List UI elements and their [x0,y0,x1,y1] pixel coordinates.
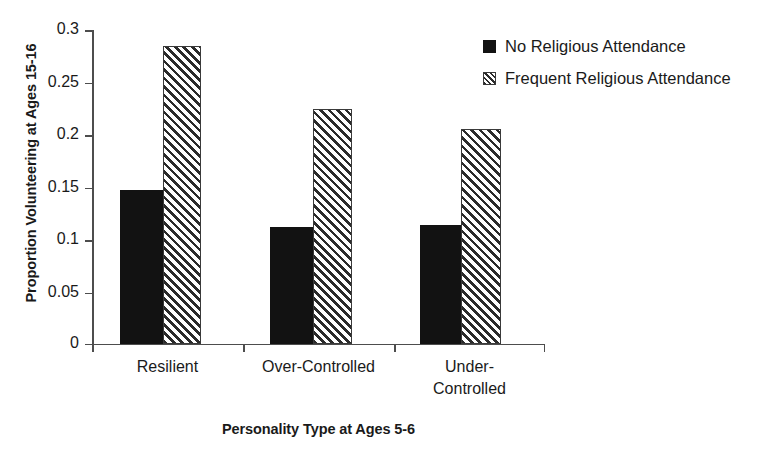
bar-under-controlled-frequent-attendance [461,129,501,343]
y-axis-line [92,30,94,345]
chart-legend: No Religious Attendance Frequent Religio… [483,30,731,94]
y-tick-label-0.1: 0.1 [57,230,79,248]
y-tick-label-0.3: 0.3 [57,20,79,38]
y-tick-label-0: 0 [70,334,79,352]
y-tick-0: 0 [85,344,92,346]
x-category-label-under-controlled-line2: Controlled [394,378,545,400]
y-tick-label-0.25: 0.25 [48,73,79,91]
y-axis-title: Proportion Volunteering at Ages 15-16 [23,3,39,343]
x-category-label-under-controlled-line1: Under- [394,356,545,378]
plot-area: 0.3 0.25 0.2 0.15 0.1 0.05 0 [92,30,545,345]
y-tick-label-0.05: 0.05 [48,283,79,301]
y-tick-label-0.15: 0.15 [48,178,79,196]
x-category-label-resilient: Resilient [92,356,243,378]
bar-under-controlled-no-attendance [420,225,461,344]
y-tick-0.15: 0.15 [85,188,92,190]
bar-resilient-no-attendance [120,190,163,343]
y-tick-0.05: 0.05 [85,293,92,295]
x-axis-line [92,344,545,346]
legend-label-no-religious-attendance: No Religious Attendance [505,37,686,56]
bar-over-controlled-frequent-attendance [313,109,352,343]
y-tick-0.1: 0.1 [85,240,92,242]
x-tick-1 [243,344,245,352]
bar-resilient-frequent-attendance [163,46,201,343]
x-tick-end [544,344,546,352]
y-tick-label-0.2: 0.2 [57,125,79,143]
legend-item-frequent-religious-attendance: Frequent Religious Attendance [483,62,731,94]
x-category-label-over-controlled: Over-Controlled [243,356,394,378]
legend-label-frequent-religious-attendance: Frequent Religious Attendance [505,69,731,88]
x-axis-title: Personality Type at Ages 5-6 [92,421,545,437]
y-tick-0.25: 0.25 [85,83,92,85]
x-tick-2 [394,344,396,352]
bar-chart: Proportion Volunteering at Ages 15-16 0.… [0,0,775,450]
x-tick-start [92,344,94,352]
legend-solid-square-icon [483,40,496,53]
legend-item-no-religious-attendance: No Religious Attendance [483,30,731,62]
y-tick-0.2: 0.2 [85,135,92,137]
legend-hatched-square-icon [483,72,496,85]
x-category-label-resilient-line1: Resilient [92,356,243,378]
x-category-label-over-controlled-line1: Over-Controlled [243,356,394,378]
x-category-label-under-controlled: Under- Controlled [394,356,545,400]
bar-over-controlled-no-attendance [270,227,313,344]
y-tick-0.3: 0.3 [85,30,92,32]
